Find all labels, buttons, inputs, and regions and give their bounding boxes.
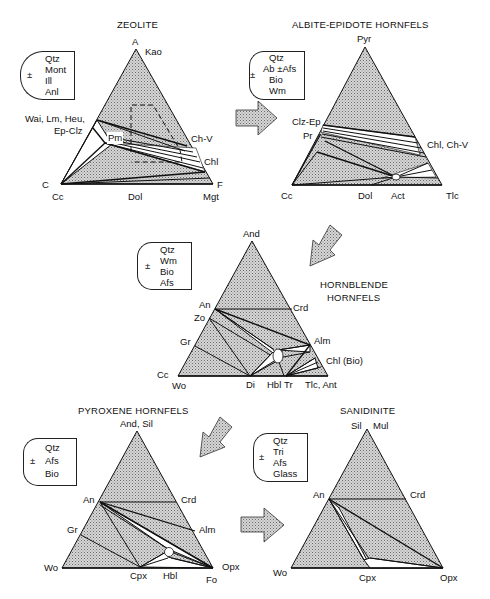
arrow-right-2	[241, 508, 284, 542]
zeolite-apex-mgt: Mgt	[203, 192, 219, 202]
legend-item: Qtz	[273, 435, 297, 446]
zeolite-legend-sign: ±	[27, 70, 32, 80]
hornblende-label-zo: Zo	[194, 313, 205, 323]
hornblende-label-alm: Alm	[314, 336, 330, 346]
pyroxene-title: PYROXENE HORNFELS	[78, 406, 189, 416]
zeolite-apex-cc: Cc	[52, 192, 64, 202]
legend-item: Wm	[160, 255, 177, 266]
legend-item: Glass	[273, 468, 297, 479]
arrow-right-1	[236, 101, 277, 135]
legend-item: Mont	[45, 64, 66, 75]
albite-label-dol: Dol	[358, 191, 372, 201]
albite-epidote-title: ALBITE-EPIDOTE HORNFELS	[292, 20, 429, 30]
hornblende-label-tr: Tr	[284, 380, 293, 390]
zeolite-apex-f: F	[217, 180, 223, 190]
legend-item: Ab ±Afs	[263, 63, 296, 74]
pyroxene-label-an: An	[83, 495, 95, 505]
legend-item: Afs	[45, 454, 60, 467]
albite-label-act: Act	[391, 191, 405, 201]
sanidinite-title: SANIDINITE	[340, 406, 395, 416]
legend-item: Tri	[273, 446, 297, 457]
zeolite-label-wai: Wai, Lm, Heu,	[25, 114, 85, 124]
pyroxene-label-crd: Crd	[181, 495, 196, 505]
hornblende-label-crd: Crd	[293, 303, 308, 313]
zeolite-legend-items: Qtz Mont Ill Anl	[45, 53, 66, 97]
pyroxene-apex-and-sil: And, Sil	[120, 419, 153, 429]
zeolite-label-pm: Pm	[107, 132, 123, 144]
sanidinite-legend-sign: ±	[259, 452, 264, 462]
hornblende-apex-tlc-ant: Tlc, Ant	[305, 380, 337, 390]
pyroxene-label-cpx: Cpx	[130, 571, 147, 581]
albite-apex-pyr: Pyr	[357, 34, 371, 44]
pyroxene-legend-sign: ±	[30, 456, 35, 466]
sanidinite-apex-wo: Wo	[273, 568, 287, 578]
sanidinite-apex-mul: Mul	[373, 421, 388, 431]
zeolite-title: ZEOLITE	[117, 20, 158, 30]
pyroxene-label-alm: Alm	[199, 525, 215, 535]
hornblende-label-chl-bio: Chl (Bio)	[326, 356, 363, 366]
hornblende-legend-sign: ±	[145, 261, 150, 271]
legend-item: Bio	[45, 467, 60, 480]
sanidinite-legend-items: Qtz Tri Afs Glass	[273, 435, 297, 479]
legend-item: Qtz	[160, 244, 177, 255]
albite-legend-sign: ±	[250, 70, 255, 80]
arrow-down-left-1	[310, 225, 342, 266]
hornblende-label-an: An	[199, 300, 211, 310]
zeolite-apex-kao: Kao	[145, 47, 162, 57]
pyroxene-label-gr: Gr	[67, 525, 78, 535]
pyroxene-apex-opx: Opx	[222, 562, 239, 572]
sanidinite-label-an: An	[313, 490, 325, 500]
legend-item: Bio	[263, 74, 296, 85]
hornblende-apex-wo: Wo	[172, 381, 186, 391]
zeolite-label-chl: Chl	[204, 157, 218, 167]
albite-legend-items: Qtz Ab ±Afs Bio Wm	[263, 52, 296, 96]
legend-item: Wm	[263, 85, 296, 96]
legend-item: Ill	[45, 75, 66, 86]
hornblende-label-gr: Gr	[180, 337, 191, 347]
albite-label-chl-chv: Chl, Ch-V	[427, 140, 468, 150]
hornblende-label-hbl: Hbl	[267, 380, 281, 390]
legend-item: Afs	[160, 277, 177, 288]
legend-item: Qtz	[45, 441, 60, 454]
zeolite-apex-c: C	[42, 180, 49, 190]
albite-label-pr: Pr	[303, 131, 313, 141]
hornblende-legend-items: Qtz Wm Bio Afs	[160, 244, 177, 288]
hornblende-title-2: HORNFELS	[327, 293, 380, 303]
legend-item: Qtz	[45, 53, 66, 64]
hornblende-apex-and: And	[243, 229, 260, 239]
zeolite-apex-a: A	[132, 37, 138, 47]
zeolite-label-dol: Dol	[128, 192, 142, 202]
albite-apex-tlc: Tlc	[446, 191, 459, 201]
zeolite-label-chv: Ch-V	[191, 134, 213, 144]
hornblende-label-di: Di	[246, 380, 255, 390]
legend-item: Anl	[45, 86, 66, 97]
sanidinite-apex-opx: Opx	[440, 573, 457, 583]
legend-item: Bio	[160, 266, 177, 277]
arrow-down-left-2	[200, 417, 232, 457]
sanidinite-apex-sil: Sil	[351, 421, 362, 431]
albite-apex-cc: Cc	[281, 191, 293, 201]
sanidinite-label-crd: Crd	[410, 490, 425, 500]
legend-item: Afs	[273, 457, 297, 468]
hornblende-title-1: HORNBLENDE	[320, 280, 388, 290]
pyroxene-apex-fo: Fo	[206, 575, 217, 585]
sanidinite-label-cpx: Cpx	[359, 573, 376, 583]
legend-item: Qtz	[263, 52, 296, 63]
zeolite-label-epclz: Ep-Clz	[54, 126, 83, 136]
pyroxene-legend-items: Qtz Afs Bio	[45, 441, 60, 480]
pyroxene-apex-wo: Wo	[44, 563, 58, 573]
hornblende-apex-cc: Cc	[157, 370, 169, 380]
pyroxene-label-hbl: Hbl	[163, 571, 177, 581]
albite-label-clzep: Clz-Ep	[292, 117, 321, 127]
